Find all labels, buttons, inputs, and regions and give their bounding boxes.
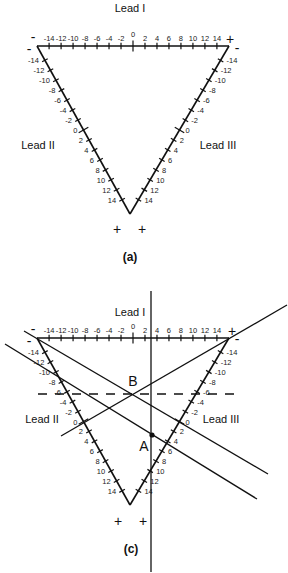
tick-label: 2 (180, 136, 184, 145)
lead-i-negative-sign: - (31, 321, 36, 337)
tick-label: -4 (60, 106, 67, 115)
caption-c: (c) (124, 542, 139, 556)
lead-i-ticks: -14-12-10-8-6-4-202468101214 (44, 322, 221, 344)
tick-label: 8 (179, 34, 183, 43)
tick-label: -10 (215, 76, 226, 85)
tick-label: -8 (209, 86, 216, 95)
caption-a: (a) (123, 250, 138, 264)
tick-label: -6 (203, 96, 210, 105)
tick-label: 2 (143, 34, 147, 43)
tick-label: 0 (186, 418, 190, 427)
tick-label: 0 (131, 322, 135, 331)
tick-label: -14 (227, 348, 238, 357)
lead-iii-negative-sign: - (235, 40, 240, 56)
tick-label: 10 (97, 467, 105, 476)
tick-label: -14 (227, 56, 238, 65)
tick-label: -2 (191, 408, 198, 417)
figure-a: Lead I -14-12-10-8-6-4-202468101214 -14-… (21, 2, 239, 264)
tick-label: 4 (174, 146, 178, 155)
lead-i-positive-sign: + (226, 31, 234, 47)
tick-label: -2 (118, 326, 125, 335)
tick-label: -6 (203, 388, 210, 397)
tick-label: -6 (94, 326, 101, 335)
tick-label: 14 (213, 326, 221, 335)
tick-label: 6 (90, 156, 94, 165)
tick-label: 10 (97, 176, 105, 185)
lead-ii-label: Lead II (21, 139, 55, 151)
tick-label: 8 (95, 457, 99, 466)
tick-label: -12 (221, 358, 232, 367)
lead-ii-label: Lead II (25, 413, 59, 425)
tick-label: -14 (28, 56, 39, 65)
point-b-label: B (128, 373, 137, 389)
tick-label: 2 (79, 427, 83, 436)
tick-label: -14 (44, 326, 55, 335)
tick-label: -14 (44, 34, 55, 43)
tick-label: -6 (54, 388, 61, 397)
lead-i-label: Lead I (115, 2, 146, 14)
point-a-label: A (139, 438, 149, 454)
tick-label: 0 (186, 126, 190, 135)
tick-label: -2 (191, 116, 198, 125)
tick-label: 6 (90, 447, 94, 456)
figure-c: Lead I -14-12-10-8-6-4-202468101214 -14-… (5, 291, 287, 572)
tick-label: -8 (49, 86, 56, 95)
tick-label: -10 (39, 368, 50, 377)
tick-label: -10 (68, 34, 79, 43)
tick-label: 10 (156, 176, 164, 185)
tick-label: 14 (213, 34, 221, 43)
tick-label: 0 (73, 418, 77, 427)
tick-label: -4 (60, 398, 67, 407)
lead-i-ticks: -14-12-10-8-6-4-202468101214 (44, 30, 221, 52)
tick-label: -12 (34, 66, 45, 75)
tick-label: 4 (84, 146, 88, 155)
tick-label: -8 (82, 326, 89, 335)
lead-iii-negative-sign: - (235, 331, 240, 347)
tick-label: 8 (162, 166, 166, 175)
tick-label: 4 (155, 34, 159, 43)
lead-ii-negative-sign: - (27, 41, 32, 57)
tick-label: 10 (189, 326, 197, 335)
tick-label: 10 (156, 467, 164, 476)
tick-label: -6 (94, 34, 101, 43)
tick-label: 0 (73, 126, 77, 135)
tick-label: 2 (143, 326, 147, 335)
tick-label: -12 (56, 34, 67, 43)
tick-label: -12 (221, 66, 232, 75)
tick-mark (175, 127, 184, 133)
tick-label: -6 (54, 96, 61, 105)
tick-label: 0 (131, 30, 135, 39)
tick-label: 10 (189, 34, 197, 43)
tick-label: 12 (201, 34, 209, 43)
tick-label: -2 (65, 116, 72, 125)
tick-label: -12 (56, 326, 67, 335)
tick-label: -14 (28, 348, 39, 357)
tick-label: 6 (167, 326, 171, 335)
tick-label: -10 (39, 76, 50, 85)
tick-label: 4 (84, 437, 88, 446)
tick-label: -2 (65, 408, 72, 417)
tick-label: -10 (68, 326, 79, 335)
tick-label: -8 (209, 378, 216, 387)
tick-label: 12 (150, 186, 158, 195)
lead-iii-positive-sign: + (139, 513, 147, 529)
tick-label: 2 (180, 427, 184, 436)
tick-label: 14 (108, 196, 116, 205)
tick-label: -4 (197, 106, 204, 115)
tick-label: 12 (201, 326, 209, 335)
lead-i-negative-sign: - (31, 29, 36, 45)
lead-ii-ticks: -14-12-10-8-6-4-202468101214 (28, 56, 125, 204)
lead-i-label: Lead I (115, 306, 146, 318)
tick-label: 2 (79, 136, 83, 145)
tick-label: 6 (167, 34, 171, 43)
tick-label: -2 (118, 34, 125, 43)
lead-iii-label: Lead III (203, 413, 240, 425)
lead-ii-positive-sign: + (114, 513, 122, 529)
tick-label: 12 (102, 186, 110, 195)
tick-label: 8 (162, 457, 166, 466)
tick-label: -10 (215, 368, 226, 377)
tick-label: 14 (144, 196, 152, 205)
tick-label: -4 (197, 398, 204, 407)
tick-label: -4 (106, 326, 113, 335)
tick-label: 6 (168, 447, 172, 456)
